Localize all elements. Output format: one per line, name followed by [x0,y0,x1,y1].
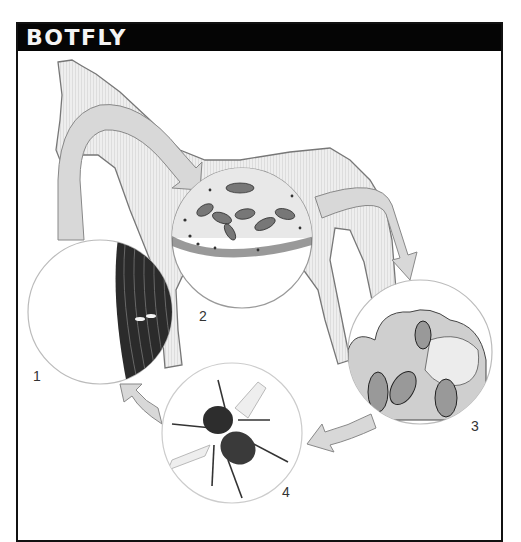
arrow-ground-to-adult [307,414,376,452]
stage-1-label: 1 [33,368,41,384]
stage-3-label: 3 [471,418,479,434]
stage-2-label: 2 [199,308,207,324]
stage-4-adult-botfly [162,363,302,503]
stage-4-label: 4 [282,484,290,500]
arrow-adult-to-eggs [120,384,162,424]
stage-3-larvae-in-dung [348,280,492,424]
